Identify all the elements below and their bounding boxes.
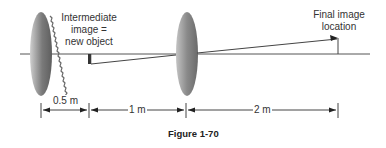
dimension-lines (41, 103, 338, 118)
final-label-line-1: Final image (308, 9, 370, 21)
dimension-label-1m: 1 m (128, 104, 147, 115)
figure-caption: Figure 1-70 (168, 128, 219, 139)
intermediate-label-line-1: Intermediate (60, 12, 118, 24)
intermediate-image-label: Intermediate image = new object (60, 12, 118, 48)
intermediate-label-line-2: image = (60, 24, 118, 36)
optics-diagram: Intermediate image = new object Final im… (0, 0, 386, 148)
lens-2-icon (176, 12, 198, 96)
dimension-label-2m: 2 m (253, 104, 272, 115)
ray-1 (91, 55, 176, 64)
final-image-arrow-icon (330, 35, 338, 54)
dimension-label-0-5m: 0.5 m (52, 95, 79, 106)
final-image-label: Final image location (308, 9, 370, 33)
intermediate-label-line-3: new object (60, 36, 118, 48)
ray-2 (197, 39, 337, 53)
final-label-line-2: location (308, 21, 370, 33)
intermediate-image-icon (88, 54, 91, 64)
